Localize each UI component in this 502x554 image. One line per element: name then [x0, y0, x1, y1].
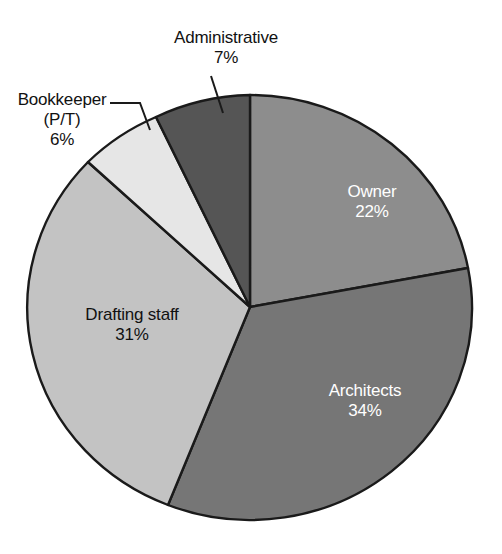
- pie-label-drafting-staff: Drafting staff 31%: [52, 305, 212, 345]
- pie-label-owner-percent: 22%: [322, 202, 422, 222]
- pie-label-bookkeeper-name: Bookkeeper: [8, 90, 116, 110]
- pie-chart: Administrative 7% Bookkeeper (P/T) 6% Dr…: [0, 0, 502, 554]
- pie-label-owner: Owner 22%: [322, 182, 422, 222]
- pie-label-administrative-percent: 7%: [146, 48, 306, 68]
- pie-label-administrative-name: Administrative: [146, 28, 306, 48]
- pie-label-bookkeeper: Bookkeeper (P/T) 6%: [8, 90, 116, 150]
- pie-label-administrative: Administrative 7%: [146, 28, 306, 68]
- pie-label-architects-percent: 34%: [306, 401, 424, 421]
- pie-label-drafting-staff-percent: 31%: [52, 325, 212, 345]
- pie-label-bookkeeper-name-line2: (P/T): [8, 110, 116, 130]
- pie-label-architects: Architects 34%: [306, 381, 424, 421]
- pie-label-drafting-staff-name: Drafting staff: [52, 305, 212, 325]
- pie-label-architects-name: Architects: [306, 381, 424, 401]
- pie-label-bookkeeper-percent: 6%: [8, 130, 116, 150]
- pie-chart-graphic: [0, 0, 502, 554]
- pie-label-owner-name: Owner: [322, 182, 422, 202]
